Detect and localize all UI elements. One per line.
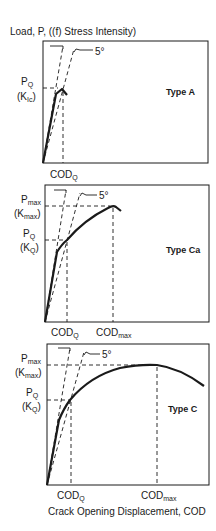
angle-marker-right [80,193,97,196]
type-label: Type A [166,87,196,97]
x-axis-title: Crack Opening Displacement, COD [48,506,206,517]
angle-label: 5° [102,349,112,360]
codq-label: CODQ [50,169,78,182]
secant-5deg-line [43,49,74,163]
fracture-curve-diagram: Load, P, ((f) Stress Intensity) 5° PQ (K… [0,0,216,531]
angle-marker-right [74,49,93,52]
type-label: Type Ca [166,245,201,255]
pq-label: PQ [26,387,39,400]
angle-marker-left [58,348,70,351]
secant-5deg-line [47,352,84,485]
angle-marker-left [54,190,66,193]
kq-label: (KQ) [20,242,39,255]
panel-type-c: 5° Pmax (Kmax) PQ (KQ) CODQ CODmax Type … [15,344,209,503]
pmax-label: Pmax [21,194,41,206]
angle-label: 5° [95,46,105,57]
y-axis-title: Load, P, ((f) Stress Intensity) [10,26,136,37]
angle-marker-right [84,352,100,355]
codq-label: CODQ [57,490,85,503]
kmax-label: (Kmax) [14,208,41,220]
codq-label: CODQ [51,327,79,340]
angle-label: 5° [99,190,109,201]
pq-label: PQ [21,76,34,89]
codmax-label: CODmax [96,327,132,339]
angle-marker-left [50,46,63,49]
type-label: Type C [168,404,198,414]
codmax-label: CODmax [141,490,177,502]
plot-frame [43,41,208,163]
panel-type-a: 5° PQ (KIc) CODQ Type A [17,41,208,182]
kmax-label: (Kmax) [15,367,42,379]
kq-label: (KQ) [22,401,41,414]
load-curve [45,206,121,322]
pmax-label: Pmax [21,353,41,365]
secant-5deg-line [45,193,80,322]
kic-label: (KIc) [17,91,36,103]
pq-label: PQ [23,228,36,241]
panel-type-ca: 5° Pmax (Kmax) PQ (KQ) CODQ CODmax Type … [14,185,209,340]
